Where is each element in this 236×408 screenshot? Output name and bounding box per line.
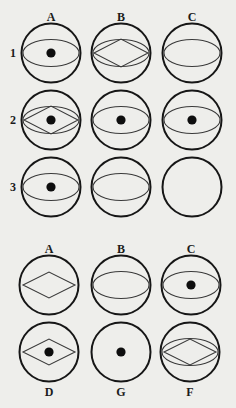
puzzle-matrix: ABC123 [10, 10, 222, 217]
outer-circle [92, 256, 151, 315]
ellipse-shape [164, 40, 220, 67]
dot-shape [46, 182, 55, 191]
column-label: B [117, 10, 125, 24]
outer-circle [92, 24, 151, 83]
matrix-cell-3b [92, 158, 151, 217]
row-label: 1 [10, 46, 16, 60]
outer-circle [92, 158, 151, 217]
matrix-cell-2b [92, 91, 151, 150]
column-label: A [47, 10, 56, 24]
answer-option-f[interactable]: F [161, 323, 220, 400]
answer-option-c[interactable]: C [162, 242, 221, 315]
matrix-cell-3c [163, 158, 222, 217]
dot-shape [116, 347, 125, 356]
answer-label: D [45, 385, 54, 399]
matrix-cell-1c [163, 24, 222, 83]
answer-option-d[interactable]: D [20, 323, 79, 400]
answer-option-g[interactable]: G [92, 323, 151, 400]
ellipse-shape [93, 174, 149, 201]
ellipse-shape [162, 339, 218, 366]
dot-shape [46, 115, 55, 124]
ellipse-shape [93, 40, 149, 67]
outer-circle [163, 24, 222, 83]
ellipse-shape [93, 272, 149, 299]
dot-shape [186, 280, 195, 289]
diamond-shape [164, 339, 216, 365]
row-label: 2 [10, 113, 16, 127]
answer-label: G [116, 385, 125, 399]
matrix-cell-2c [163, 91, 222, 150]
answer-option-a[interactable]: A [20, 242, 79, 315]
dot-shape [187, 115, 196, 124]
matrix-cell-2a [22, 91, 81, 150]
outer-circle [163, 158, 222, 217]
dot-shape [46, 48, 55, 57]
outer-circle [20, 256, 79, 315]
answer-label: B [117, 242, 125, 256]
dot-shape [44, 347, 53, 356]
answer-label: A [45, 242, 54, 256]
matrix-cell-1a [22, 24, 81, 83]
answer-label: F [186, 385, 193, 399]
answer-options: ABCDGF [20, 242, 221, 399]
row-label: 3 [10, 180, 16, 194]
outer-circle [161, 323, 220, 382]
matrix-cell-1b [92, 24, 151, 83]
puzzle-figure: ABC123 ABCDGF [0, 0, 236, 408]
figure-canvas: ABC123 ABCDGF [0, 0, 236, 408]
diamond-shape [23, 272, 75, 298]
dot-shape [116, 115, 125, 124]
column-label: C [188, 10, 197, 24]
answer-label: C [187, 242, 196, 256]
matrix-cell-3a [22, 158, 81, 217]
answer-option-b[interactable]: B [92, 242, 151, 315]
